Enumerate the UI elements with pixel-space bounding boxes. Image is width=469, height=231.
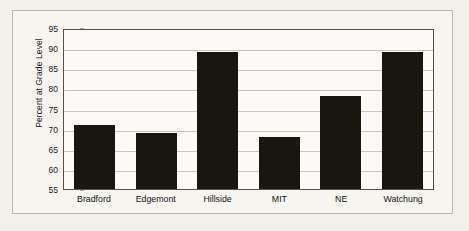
bar: [74, 125, 115, 189]
bar-slot: [126, 30, 188, 189]
y-axis-tick-label: 75: [32, 105, 58, 115]
y-axis-tick-labels: 959085807570656055: [32, 29, 58, 190]
x-axis-tick-label: NE: [310, 194, 372, 204]
y-axis-tick-label: 55: [32, 185, 58, 195]
bar-chart: Percent at Grade Level 95908580757065605…: [12, 10, 453, 214]
y-axis-tick-label: 80: [32, 84, 58, 94]
bar-slot: [249, 30, 311, 189]
y-axis-tick-label: 65: [32, 145, 58, 155]
y-axis-tick-label: 95: [32, 24, 58, 34]
bar: [382, 52, 423, 189]
chart-page: Percent at Grade Level 95908580757065605…: [0, 0, 469, 231]
bar-series: [64, 30, 433, 189]
bar-slot: [372, 30, 434, 189]
x-axis-tick-label: Bradford: [63, 194, 125, 204]
bar: [259, 137, 300, 189]
x-axis-tick-label: MIT: [248, 194, 310, 204]
x-axis-tick-labels: BradfordEdgemontHillsideMITNEWatchung: [63, 194, 434, 204]
bar: [197, 52, 238, 189]
y-axis-tick-label: 85: [32, 64, 58, 74]
x-axis-tick-label: Edgemont: [125, 194, 187, 204]
x-axis-tick-label: Watchung: [372, 194, 434, 204]
bar-slot: [310, 30, 372, 189]
plot-area: [63, 29, 434, 190]
y-axis-tick-label: 70: [32, 125, 58, 135]
bar-slot: [187, 30, 249, 189]
y-axis-tick-label: 90: [32, 44, 58, 54]
y-axis-tick-label: 60: [32, 165, 58, 175]
bar: [136, 133, 177, 189]
bar: [320, 96, 361, 189]
bar-slot: [64, 30, 126, 189]
x-axis-tick-label: Hillside: [187, 194, 249, 204]
